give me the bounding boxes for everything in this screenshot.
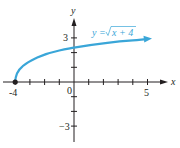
x-tick-label-neg4: -4 <box>9 87 17 98</box>
y-tick-label-3: 3 <box>63 32 68 43</box>
origin-label: 0 <box>67 85 72 96</box>
curve-start-point <box>13 79 18 84</box>
y-tick-label-neg3: −3 <box>59 121 70 132</box>
x-axis-label: x <box>170 76 176 87</box>
equation-radicand: x + 4 <box>111 27 133 38</box>
y-axis-label: y <box>70 5 76 16</box>
x-tick-label-5: 5 <box>144 87 149 98</box>
equation-lhs: y = <box>91 27 106 38</box>
curve-sqrt <box>15 39 144 82</box>
graph: y x 0 -4 5 3 −3 y = x + 4 <box>0 0 180 148</box>
curve-arrow-icon <box>144 36 153 43</box>
y-axis-arrow-icon <box>72 18 77 26</box>
x-axis-arrow-icon <box>160 80 168 85</box>
